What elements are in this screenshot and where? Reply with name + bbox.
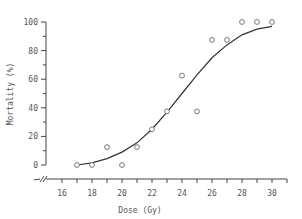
y-axis: 020406080100 [24, 18, 46, 170]
x-tick-label: 20 [117, 189, 127, 198]
x-tick-label: 18 [87, 189, 97, 198]
x-tick-label: 22 [147, 189, 157, 198]
data-point [270, 20, 275, 25]
x-tick-label: 26 [207, 189, 217, 198]
data-point [180, 73, 185, 78]
x-axis: 1618202224262830 [34, 176, 287, 198]
x-tick-label: 28 [237, 189, 247, 198]
data-point [165, 109, 170, 114]
fitted-curve [77, 26, 272, 165]
dose-mortality-chart: 020406080100 1618202224262830 Dose (Gy) … [0, 0, 302, 219]
data-point [120, 163, 125, 168]
data-point [75, 163, 80, 168]
data-point [105, 145, 110, 150]
y-tick-label: 60 [28, 75, 38, 84]
data-point [90, 163, 95, 168]
y-tick-label: 40 [28, 104, 38, 113]
x-tick-label: 16 [57, 189, 67, 198]
data-point [225, 37, 230, 42]
data-point [195, 109, 200, 114]
data-point [150, 127, 155, 132]
x-axis-title: Dose (Gy) [118, 206, 161, 215]
y-axis-title: Mortality (%) [6, 63, 15, 126]
data-point [240, 20, 245, 25]
data-point [210, 37, 215, 42]
x-tick-label: 30 [267, 189, 277, 198]
y-tick-label: 0 [33, 161, 38, 170]
data-point [255, 20, 260, 25]
data-points [75, 20, 275, 168]
x-tick-label: 24 [177, 189, 187, 198]
y-tick-label: 80 [28, 47, 38, 56]
y-tick-label: 100 [24, 18, 39, 27]
y-tick-label: 20 [28, 132, 38, 141]
data-point [135, 145, 140, 150]
